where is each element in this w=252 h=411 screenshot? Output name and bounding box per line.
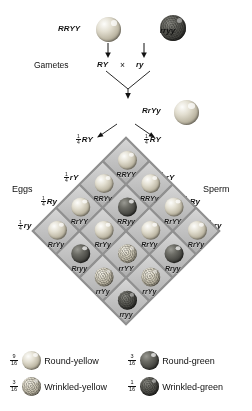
wrinkled-green-seed-icon [117, 291, 136, 310]
round-yellow-seed-icon [164, 197, 183, 216]
wrinkled-yellow-seed-icon [22, 377, 41, 396]
punnett-cell-genotype: RrYy [141, 241, 157, 248]
fraction-glyph: 1 16 [128, 380, 136, 392]
gamete-fusion-lines [104, 71, 152, 99]
legend-item-round-yellow: 9 16 Round-yellow [10, 351, 99, 370]
punnett-cell-genotype: Rryy [165, 264, 181, 271]
cross-symbol: × [120, 60, 125, 70]
round-yellow-seed-icon [47, 221, 66, 240]
gamete-left-label: RY [97, 60, 108, 69]
parent1-genotype-label: RRYY [58, 24, 80, 33]
legend-item-wrinkled-green: 1 16 Wrinkled-green [128, 377, 223, 396]
round-green-seed-icon [140, 351, 159, 370]
punnett-cell-genotype: rrYY [119, 264, 134, 271]
legend-item-round-green: 3 16 Round-green [128, 351, 215, 370]
f1-genotype-label: RrYy [142, 106, 161, 115]
round-green-seed-icon [164, 244, 183, 263]
round-yellow-seed-icon [96, 17, 121, 42]
fraction-glyph: 3 16 [128, 354, 136, 366]
legend-item-wrinkled-yellow: 3 16 Wrinkled-yellow [10, 377, 107, 396]
wrinkled-green-seed-icon [140, 377, 159, 396]
round-yellow-seed-icon [94, 174, 113, 193]
punnett-cell-genotype: rryy [119, 311, 132, 318]
round-green-seed-icon [71, 244, 90, 263]
round-yellow-seed-icon [141, 174, 160, 193]
punnett-cell-genotype: RrYy [94, 241, 110, 248]
round-yellow-seed-icon [22, 351, 41, 370]
gametes-row-label: Gametes [34, 60, 69, 70]
parent1-to-gamete-arrow [103, 43, 113, 59]
fraction-glyph: 9 16 [10, 354, 18, 366]
round-yellow-seed-icon [117, 151, 136, 170]
wrinkled-yellow-seed-icon [117, 244, 136, 263]
round-yellow-seed-icon [71, 197, 90, 216]
punnett-cell-genotype: rrYy [96, 287, 110, 294]
punnett-cell-genotype: RrYy [188, 241, 204, 248]
parent2-to-gamete-arrow [139, 43, 149, 59]
parent2-genotype-label: rryy [160, 26, 175, 35]
legend-label: Wrinkled-green [162, 382, 223, 392]
round-yellow-seed-icon [141, 221, 160, 240]
legend-label: Wrinkled-yellow [44, 382, 107, 392]
punnett-cell-genotype: Rryy [72, 264, 88, 271]
wrinkled-yellow-seed-icon [141, 267, 160, 286]
f1-round-yellow-seed-icon [174, 100, 199, 125]
gamete-right-label: ry [136, 60, 144, 69]
figure-canvas: RRYY rryy Gametes RY × ry RrYy 1 4 RY [0, 0, 252, 411]
punnett-square: RRYYRRYyRrYYRrYyRRYyRRyyRrYyRryyRrYYRrYy… [14, 136, 238, 326]
punnett-grid: RRYYRRYyRrYYRrYyRRYyRRyyRrYyRryyRrYYRrYy… [33, 138, 220, 325]
legend: 9 16 Round-yellow 3 16 Round-green 3 16 … [0, 349, 252, 407]
legend-label: Round-green [162, 356, 215, 366]
round-yellow-seed-icon [187, 221, 206, 240]
round-yellow-seed-icon [94, 221, 113, 240]
legend-label: Round-yellow [44, 356, 99, 366]
wrinkled-yellow-seed-icon [94, 267, 113, 286]
punnett-cell-genotype: RrYy [48, 241, 64, 248]
fraction-glyph: 3 16 [10, 380, 18, 392]
punnett-cell-genotype: rrYy [142, 287, 156, 294]
round-green-seed-icon [117, 197, 136, 216]
